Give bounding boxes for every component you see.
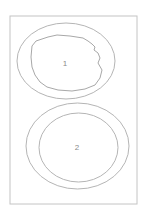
region-2: 2	[26, 103, 129, 189]
region-1-label: 1	[63, 59, 68, 68]
diagram-frame	[10, 16, 137, 204]
diagram-canvas: 1 2	[0, 0, 150, 210]
region-2-label: 2	[75, 143, 80, 152]
region-1: 1	[17, 23, 115, 99]
